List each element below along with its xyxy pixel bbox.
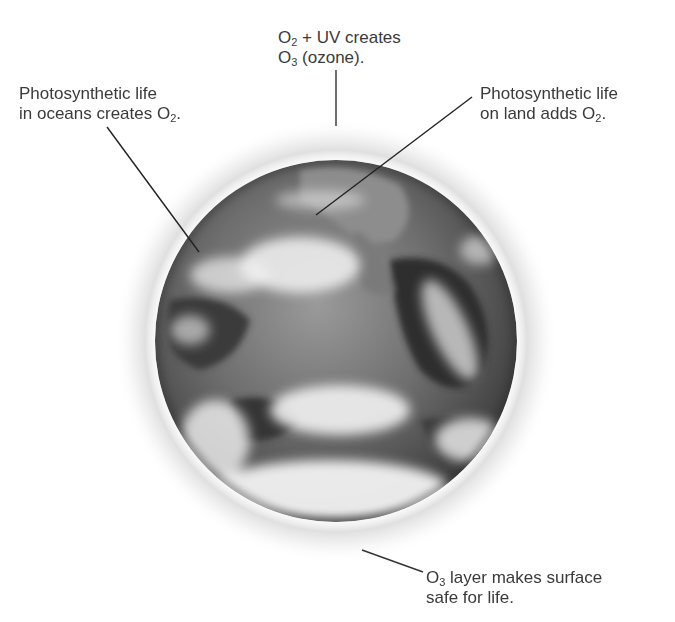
label-ocean-photosynthesis: Photosynthetic life in oceans creates O2… bbox=[19, 84, 181, 124]
label-ocean-photosynthesis-line1: Photosynthetic life bbox=[19, 84, 181, 104]
label-ozone-layer-line2: safe for life. bbox=[426, 588, 602, 608]
label-ozone-creation-line1: O2 + UV creates bbox=[278, 28, 401, 48]
label-land-photosynthesis-line1: Photosynthetic life bbox=[480, 84, 618, 104]
earth-globe bbox=[155, 160, 517, 522]
label-ocean-photosynthesis-line2: in oceans creates O2. bbox=[19, 104, 181, 124]
label-land-photosynthesis: Photosynthetic life on land adds O2. bbox=[480, 84, 618, 124]
label-land-photosynthesis-line2: on land adds O2. bbox=[480, 104, 618, 124]
label-ozone-layer: O3 layer makes surface safe for life. bbox=[426, 568, 602, 608]
label-ozone-creation: O2 + UV creates O3 (ozone). bbox=[278, 28, 401, 68]
label-ozone-layer-line1: O3 layer makes surface bbox=[426, 568, 602, 588]
label-ozone-creation-line2: O3 (ozone). bbox=[278, 48, 401, 68]
